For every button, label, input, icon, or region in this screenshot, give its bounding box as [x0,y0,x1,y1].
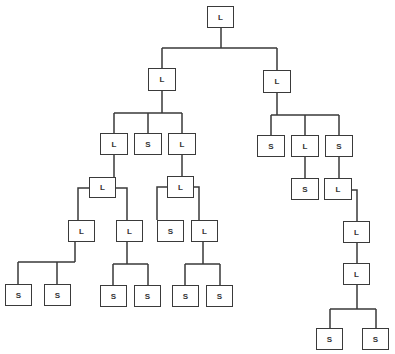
connector-line [114,91,182,133]
node-label: S [145,140,150,149]
node-label: S [336,142,341,151]
connector-line [271,93,339,135]
node-label: S [55,291,60,300]
tree-node-s: S [325,135,353,157]
tree-node-s: S [44,284,71,306]
tree-node-s: S [362,328,389,350]
tree-node-l: L [148,68,176,91]
node-label: L [218,13,223,22]
tree-node-l: L [263,70,291,93]
tree-node-l: L [168,133,196,155]
node-label: L [79,227,84,236]
node-label: L [354,270,359,279]
node-label: L [178,183,183,192]
node-label: S [145,292,150,301]
node-label: S [111,292,116,301]
tree-node-l: L [191,220,218,242]
tree-node-l: L [116,220,143,242]
connector-line [330,285,376,328]
connector-line [113,242,148,285]
tree-node-l: L [343,263,370,285]
connector-line [352,190,357,221]
tree-node-l: L [89,177,116,198]
tree-node-s: S [291,178,319,200]
node-label: S [302,185,307,194]
tree-node-s: S [257,135,285,157]
connector-line [18,242,75,284]
node-label: L [303,142,308,151]
node-label: S [168,227,173,236]
tree-node-l: L [68,220,95,242]
node-label: L [127,227,132,236]
tree-node-l: L [324,178,352,200]
tree-node-s: S [172,285,199,307]
node-label: L [202,227,207,236]
tree-node-l: L [207,6,234,28]
tree-node-s: S [5,284,32,306]
tree-node-l: L [167,176,194,198]
node-label: S [217,292,222,301]
tree-node-s: S [316,328,343,350]
node-label: L [160,75,165,84]
tree-node-s: S [134,133,162,155]
node-label: L [275,77,280,86]
connector-line [162,28,277,70]
connector-line [185,242,220,285]
node-label: L [100,183,105,192]
tree-diagram: LLLLSLSLSLLSLLLSLLLSSSSSSSS [0,0,395,354]
node-label: S [327,335,332,344]
node-label: S [373,335,378,344]
tree-node-l: L [343,221,370,243]
node-label: S [268,142,273,151]
node-label: L [112,140,117,149]
tree-node-l: L [100,133,128,155]
tree-node-l: L [291,135,319,157]
node-label: L [354,228,359,237]
tree-node-s: S [100,285,127,307]
node-label: L [336,185,341,194]
node-label: L [180,140,185,149]
node-label: S [16,291,21,300]
tree-node-s: S [157,220,184,242]
tree-node-s: S [206,285,233,307]
node-label: S [183,292,188,301]
tree-node-s: S [134,285,161,307]
